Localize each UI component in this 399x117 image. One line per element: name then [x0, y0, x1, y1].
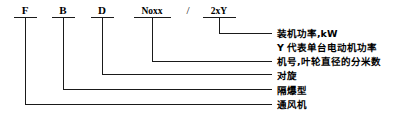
- leader-d: [102, 17, 272, 74]
- label-model-no: 机号,叶轮直径的分米数: [277, 56, 381, 67]
- token-b: B: [59, 4, 66, 16]
- separator-slash: /: [186, 4, 189, 16]
- leader-line-group: [25, 17, 272, 104]
- label-power: 装机功率,kW: [277, 28, 337, 39]
- token-d: D: [98, 4, 106, 16]
- token-no: Noxx: [141, 5, 162, 17]
- fan-model-designation-diagram: FBDNoxx2xY/ 装机功率,kWY 代表单台电动机功率机号,叶轮直径的分米…: [0, 0, 399, 117]
- label-counter-rot: 对旋: [277, 70, 297, 81]
- label-motor-power: Y 代表单台电动机功率: [277, 42, 377, 53]
- label-fan: 通风机: [277, 99, 307, 110]
- leader-2xy: [219, 17, 272, 33]
- leader-no: [152, 17, 272, 61]
- label-explosion: 隔爆型: [277, 85, 307, 96]
- leader-b: [63, 17, 272, 89]
- token-f: F: [22, 4, 29, 16]
- token-2xy: 2xY: [211, 5, 227, 17]
